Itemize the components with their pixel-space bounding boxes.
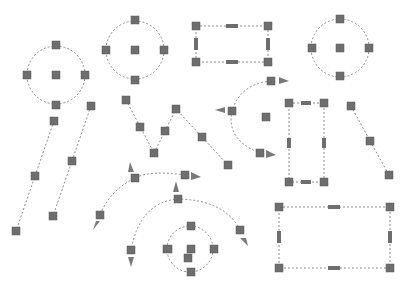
arrow-up-icon[interactable]	[128, 162, 134, 172]
resize-handle-top[interactable]	[52, 41, 60, 49]
resize-handle-bottom[interactable]	[52, 101, 60, 109]
corner-handle-top-left[interactable]	[275, 203, 283, 211]
edge-handle-left[interactable]	[287, 138, 291, 148]
resize-handle-left[interactable]	[23, 71, 31, 79]
edge-handle-right[interactable]	[266, 38, 270, 50]
endpoint-handle-end[interactable]	[385, 171, 393, 179]
edge-handle-bottom[interactable]	[301, 180, 311, 184]
vertex-handle-3[interactable]	[172, 105, 180, 113]
arc-endpoint-handle-start[interactable]	[181, 171, 189, 179]
arrow-right-icon[interactable]	[279, 77, 289, 84]
circle-shape-small-bottom[interactable]	[163, 222, 218, 276]
circle-shape-top-middle[interactable]	[102, 16, 168, 84]
endpoint-handle-start[interactable]	[87, 102, 95, 110]
corner-handle-bottom-right[interactable]	[320, 178, 328, 186]
resize-handle-left[interactable]	[308, 44, 316, 52]
resize-handle-top[interactable]	[187, 222, 195, 230]
line-shape-right[interactable]	[347, 102, 393, 179]
arc-endpoint-handle-end[interactable]	[127, 246, 135, 254]
vertex-handle-4[interactable]	[224, 161, 232, 169]
edge-handle-top[interactable]	[301, 101, 311, 105]
corner-handle-top-right[interactable]	[264, 22, 272, 30]
vertex-handle-2[interactable]	[150, 149, 158, 157]
diagram-canvas	[0, 0, 403, 282]
arc-midpoint-handle[interactable]	[131, 174, 139, 182]
resize-handle-right[interactable]	[81, 71, 89, 79]
vertex-handle-1[interactable]	[122, 96, 130, 104]
rotation-handle[interactable]	[184, 254, 192, 262]
endpoint-handle-end[interactable]	[49, 212, 57, 220]
arc-midpoint-handle[interactable]	[228, 107, 236, 115]
rectangle-outline	[196, 26, 268, 62]
resize-handle-bottom[interactable]	[336, 72, 344, 80]
arc-path	[100, 173, 185, 215]
center-handle[interactable]	[187, 245, 195, 253]
resize-handle-right[interactable]	[160, 46, 168, 54]
edge-handle-left[interactable]	[194, 38, 198, 50]
edge-handle-left[interactable]	[277, 231, 281, 243]
corner-handle-bottom-right[interactable]	[386, 264, 394, 272]
rectangle-shape-bottom[interactable]	[275, 203, 394, 272]
midpoint-handle[interactable]	[68, 157, 76, 165]
center-handle[interactable]	[336, 44, 344, 52]
arc-shape-right[interactable]	[215, 77, 289, 158]
resize-handle-bottom[interactable]	[187, 268, 195, 276]
arrow-up-icon[interactable]	[173, 181, 179, 192]
edge-handle-bottom[interactable]	[226, 60, 238, 64]
arc-endpoint-handle-start[interactable]	[236, 226, 244, 234]
segment-handle-2[interactable]	[161, 127, 169, 135]
arc-path	[131, 199, 240, 250]
resize-handle-right[interactable]	[210, 245, 218, 253]
edge-handle-right[interactable]	[322, 138, 326, 148]
arrow-right-icon[interactable]	[191, 172, 201, 180]
midpoint-handle[interactable]	[31, 172, 39, 180]
circle-shape-top-right[interactable]	[308, 15, 373, 80]
resize-handle-bottom[interactable]	[131, 76, 139, 84]
arrow-down-icon[interactable]	[93, 221, 100, 230]
endpoint-handle-start[interactable]	[50, 117, 58, 125]
arc-center-handle[interactable]	[262, 113, 270, 121]
edge-handle-top[interactable]	[226, 24, 238, 28]
rectangle-shape-top[interactable]	[192, 22, 272, 66]
corner-handle-bottom-left[interactable]	[192, 58, 200, 66]
center-handle[interactable]	[52, 71, 60, 79]
midpoint-handle[interactable]	[366, 137, 374, 145]
arc-shape-middle[interactable]	[93, 162, 201, 230]
segment-handle-3[interactable]	[198, 133, 206, 141]
arc-endpoint-handle-start[interactable]	[267, 77, 275, 85]
arrow-right-icon[interactable]	[266, 150, 276, 158]
resize-handle-top[interactable]	[336, 15, 344, 23]
rectangle-shape-tall[interactable]	[285, 99, 328, 186]
resize-handle-left[interactable]	[163, 245, 172, 253]
corner-handle-top-right[interactable]	[320, 99, 328, 107]
resize-handle-left[interactable]	[102, 46, 110, 54]
circle-shape-left[interactable]	[23, 41, 89, 109]
arc-endpoint-handle-end[interactable]	[256, 149, 264, 157]
endpoint-handle-start[interactable]	[347, 102, 355, 110]
corner-handle-top-left[interactable]	[285, 99, 293, 107]
arc-midpoint-handle[interactable]	[174, 195, 182, 203]
resize-handle-right[interactable]	[365, 44, 373, 52]
resize-handle-top[interactable]	[131, 16, 139, 24]
corner-handle-top-right[interactable]	[386, 203, 394, 211]
rectangle-outline	[279, 207, 390, 268]
center-handle[interactable]	[131, 46, 139, 54]
corner-handle-bottom-left[interactable]	[285, 178, 293, 186]
arrow-left-icon[interactable]	[215, 107, 225, 113]
arrow-down-icon[interactable]	[128, 257, 134, 267]
arrow-down-icon[interactable]	[240, 238, 248, 246]
rectangle-outline	[289, 103, 324, 182]
endpoint-handle-end[interactable]	[12, 227, 20, 235]
corner-handle-top-left[interactable]	[192, 22, 200, 30]
edge-handle-right[interactable]	[388, 231, 392, 243]
edge-handle-top[interactable]	[328, 205, 340, 209]
segment-handle-1[interactable]	[136, 123, 144, 131]
polyline-shape[interactable]	[122, 96, 232, 169]
arc-endpoint-handle-end[interactable]	[96, 211, 104, 219]
edge-handle-bottom[interactable]	[328, 266, 340, 270]
corner-handle-bottom-left[interactable]	[275, 264, 283, 272]
corner-handle-bottom-right[interactable]	[264, 58, 272, 66]
